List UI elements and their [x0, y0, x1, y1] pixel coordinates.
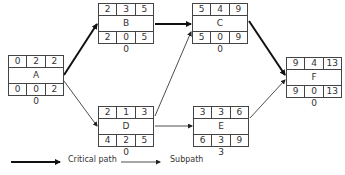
slack-value: 0: [8, 96, 64, 107]
late-start: 9: [287, 86, 305, 97]
late-finish: 9: [231, 135, 248, 146]
legend-sub-label: Subpath: [170, 155, 203, 165]
node-C: 549 C 509 0: [192, 3, 248, 55]
float: 2: [117, 135, 135, 146]
late-finish: 2: [46, 84, 63, 95]
early-finish: 13: [324, 58, 341, 69]
duration: 3: [212, 107, 230, 118]
early-finish: 5: [136, 4, 153, 15]
slack-value: 0: [286, 98, 342, 109]
node-A: 022 A 002 0: [8, 55, 64, 107]
early-start: 9: [287, 58, 305, 69]
early-finish: 3: [136, 107, 153, 118]
slack-value: 0: [98, 44, 154, 55]
late-finish: 13: [324, 86, 341, 97]
early-start: 3: [194, 107, 212, 118]
slack-value: 0: [192, 44, 248, 55]
early-finish: 6: [231, 107, 248, 118]
node-E: 336 E 639 3: [193, 106, 249, 158]
edge-A-B: [64, 24, 97, 75]
early-start: 0: [9, 56, 27, 67]
duration: 2: [27, 56, 45, 67]
edge-C-F: [249, 21, 285, 75]
duration: 1: [117, 107, 135, 118]
node-F: 9413 F 9013 0: [286, 57, 342, 109]
duration: 4: [305, 58, 323, 69]
edge-A-D: [64, 81, 97, 126]
float: 3: [212, 135, 230, 146]
early-finish: 9: [230, 4, 247, 15]
duration: 4: [211, 4, 229, 15]
float: 0: [117, 32, 135, 43]
activity-name: F: [311, 71, 316, 84]
late-start: 5: [193, 32, 211, 43]
node-D: 213 D 425 0: [98, 106, 154, 158]
early-start: 2: [99, 4, 117, 15]
late-start: 2: [99, 32, 117, 43]
late-start: 4: [99, 135, 117, 146]
early-finish: 2: [46, 56, 63, 67]
float: 0: [27, 84, 45, 95]
activity-name: D: [123, 120, 130, 133]
late-start: 6: [194, 135, 212, 146]
early-start: 5: [193, 4, 211, 15]
activity-name: A: [33, 69, 39, 82]
activity-name: C: [217, 17, 223, 30]
float: 0: [211, 32, 229, 43]
legend-critical-label: Critical path: [68, 155, 117, 165]
edge-D-C: [155, 32, 191, 116]
late-start: 0: [9, 84, 27, 95]
activity-name: B: [123, 17, 129, 30]
late-finish: 5: [136, 32, 153, 43]
early-start: 2: [99, 107, 117, 118]
duration: 3: [117, 4, 135, 15]
activity-name: E: [218, 120, 224, 133]
late-finish: 9: [230, 32, 247, 43]
float: 0: [305, 86, 323, 97]
late-finish: 5: [136, 135, 153, 146]
node-B: 235 B 205 0: [98, 3, 154, 55]
edge-E-F: [250, 80, 285, 118]
